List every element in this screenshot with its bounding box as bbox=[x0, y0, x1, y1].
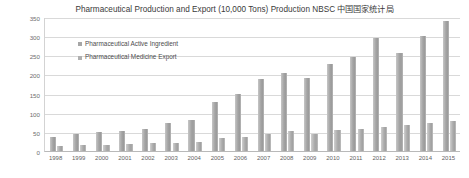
x-tick-label: 2001 bbox=[113, 155, 136, 161]
bar-group bbox=[119, 18, 133, 151]
y-tick-label: 250 bbox=[18, 53, 40, 60]
x-tick-label: 2002 bbox=[136, 155, 159, 161]
x-tick-label: 2011 bbox=[344, 155, 367, 161]
bar-2009-series-1 bbox=[311, 134, 317, 151]
bar-2013-series-0 bbox=[396, 53, 402, 151]
bar-2009-series-0 bbox=[304, 78, 310, 152]
x-tick-label: 2006 bbox=[229, 155, 252, 161]
bar-group bbox=[96, 18, 110, 151]
bar-2000-series-0 bbox=[96, 132, 102, 151]
y-tick-label: 200 bbox=[18, 72, 40, 79]
chart-container: Pharmaceutical Production and Export (10… bbox=[0, 0, 469, 178]
chart-legend: Pharmaceutical Active IngredientPharmace… bbox=[78, 41, 178, 68]
legend-swatch-icon bbox=[78, 56, 82, 60]
x-tick-label: 2010 bbox=[321, 155, 344, 161]
bar-2015-series-1 bbox=[450, 121, 456, 151]
bar-2005-series-0 bbox=[212, 102, 218, 151]
bar-2001-series-0 bbox=[119, 131, 125, 151]
x-tick-label: 2004 bbox=[183, 155, 206, 161]
legend-item-1[interactable]: Pharmaceutical Medicine Export bbox=[78, 54, 178, 60]
bar-group bbox=[281, 18, 295, 151]
bar-2011-series-1 bbox=[358, 129, 364, 151]
bar-2006-series-0 bbox=[235, 94, 241, 151]
x-tick-label: 2009 bbox=[298, 155, 321, 161]
bar-2011-series-0 bbox=[350, 57, 356, 151]
bar-group bbox=[165, 18, 179, 151]
x-tick-label: 2005 bbox=[206, 155, 229, 161]
bar-1998-series-1 bbox=[57, 146, 63, 151]
bar-group bbox=[188, 18, 202, 151]
bar-2012-series-1 bbox=[381, 127, 387, 151]
y-tick-label: 300 bbox=[18, 34, 40, 41]
bar-group bbox=[443, 18, 457, 151]
bar-2014-series-0 bbox=[420, 36, 426, 151]
bar-group bbox=[350, 18, 364, 151]
bar-2008-series-1 bbox=[288, 131, 294, 151]
bar-group bbox=[142, 18, 156, 151]
bar-2015-series-0 bbox=[443, 21, 449, 151]
x-tick-label: 2012 bbox=[368, 155, 391, 161]
x-tick-label: 2007 bbox=[252, 155, 275, 161]
legend-swatch-icon bbox=[78, 42, 82, 46]
bar-group bbox=[420, 18, 434, 151]
bar-2007-series-1 bbox=[265, 134, 271, 151]
bar-group bbox=[73, 18, 87, 151]
bar-2002-series-1 bbox=[150, 143, 156, 151]
bar-2014-series-1 bbox=[427, 123, 433, 151]
bar-2006-series-1 bbox=[242, 137, 248, 151]
bar-2010-series-1 bbox=[334, 130, 340, 151]
bar-2003-series-1 bbox=[173, 143, 179, 151]
bar-2004-series-0 bbox=[188, 120, 194, 151]
bar-group bbox=[327, 18, 341, 151]
bar-2002-series-0 bbox=[142, 129, 148, 151]
bar-2004-series-1 bbox=[196, 142, 202, 151]
y-tick-label: 150 bbox=[18, 92, 40, 99]
bar-group bbox=[304, 18, 318, 151]
x-tick-label: 2013 bbox=[391, 155, 414, 161]
y-tick-label: 0 bbox=[18, 149, 40, 156]
bar-2007-series-0 bbox=[258, 79, 264, 151]
y-tick-label: 50 bbox=[18, 130, 40, 137]
x-tick-label: 2014 bbox=[414, 155, 437, 161]
chart-title: Pharmaceutical Production and Export (10… bbox=[0, 2, 469, 14]
bar-2003-series-0 bbox=[165, 123, 171, 151]
bar-2012-series-0 bbox=[373, 38, 379, 151]
bar-2010-series-0 bbox=[327, 64, 333, 151]
bar-2013-series-1 bbox=[404, 125, 410, 151]
legend-label: Pharmaceutical Active Ingredient bbox=[85, 41, 178, 47]
bar-group bbox=[50, 18, 64, 151]
bar-2001-series-1 bbox=[126, 144, 132, 151]
bar-group bbox=[396, 18, 410, 151]
x-tick-label: 2000 bbox=[90, 155, 113, 161]
plot-area bbox=[44, 18, 460, 152]
bar-2005-series-1 bbox=[219, 138, 225, 151]
bar-group bbox=[235, 18, 249, 151]
bar-group bbox=[258, 18, 272, 151]
legend-label: Pharmaceutical Medicine Export bbox=[85, 54, 177, 60]
bar-group bbox=[212, 18, 226, 151]
y-tick-label: 350 bbox=[18, 15, 40, 22]
x-tick-label: 2003 bbox=[160, 155, 183, 161]
bar-1999-series-1 bbox=[80, 145, 86, 151]
x-tick-label: 1999 bbox=[67, 155, 90, 161]
bar-group bbox=[373, 18, 387, 151]
bar-2008-series-0 bbox=[281, 73, 287, 151]
y-tick-label: 100 bbox=[18, 111, 40, 118]
bar-1998-series-0 bbox=[50, 137, 56, 151]
x-tick-label: 1998 bbox=[44, 155, 67, 161]
bar-1999-series-0 bbox=[73, 134, 79, 151]
x-tick-label: 2008 bbox=[275, 155, 298, 161]
x-tick-label: 2015 bbox=[437, 155, 460, 161]
legend-item-0[interactable]: Pharmaceutical Active Ingredient bbox=[78, 41, 178, 47]
bar-2000-series-1 bbox=[103, 145, 109, 152]
